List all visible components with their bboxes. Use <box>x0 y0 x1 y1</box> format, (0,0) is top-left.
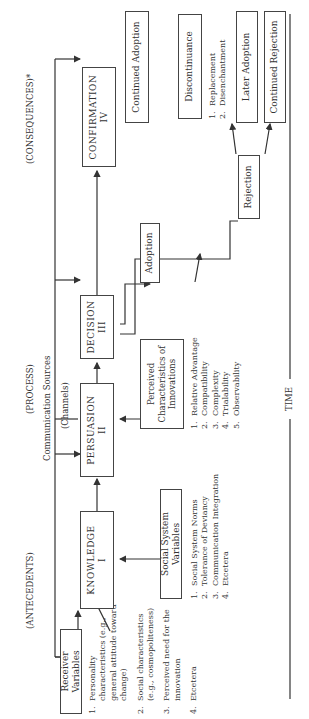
receiver-variables-list: 1.Personality characteristics (e.g., gen… <box>88 594 200 714</box>
confirmation-stage-box: CONFIRMATION IV <box>82 67 116 167</box>
persuasion-stage-box: PERSUASION II <box>80 383 114 477</box>
knowledge-stage-box: KNOWLEDGE I <box>80 511 114 609</box>
antecedents-header: (ANTECEDENTS) <box>25 552 35 629</box>
perceived-characteristics-box: Perceived Characteristics of Innovations <box>140 339 184 429</box>
social-system-variables-list: 1.Social System Norms 2.Tolerance of Dev… <box>190 449 232 599</box>
rejection-box: Rejection <box>238 155 260 219</box>
list-item: Observability <box>232 362 242 416</box>
list-item: Compatibility <box>200 361 210 416</box>
list-item: Communication Integration <box>211 474 221 586</box>
adoption-box: Adoption <box>140 223 160 283</box>
communication-sources-label: Communication Sources <box>42 356 52 461</box>
social-system-variables-box: Social System Variables <box>160 489 182 599</box>
perceived-characteristics-list: 1.Relative Advantage 2.Compatibility 3.C… <box>190 299 242 429</box>
list-item: Tolerance of Deviancy <box>200 496 210 586</box>
decision-stage-box: DECISION III <box>80 295 114 359</box>
time-axis-label: TIME <box>284 387 294 411</box>
channels-label: (Channels) <box>60 382 70 429</box>
process-header: (PROCESS) <box>25 364 35 414</box>
list-item: Disenchantment <box>218 40 228 106</box>
diagram-canvas: (ANTECEDENTS) (PROCESS) (CONSEQUENCES)* … <box>0 0 309 719</box>
continued-rejection-box: Continued Rejection <box>264 11 286 123</box>
receiver-variables-box: Receiver Variables <box>60 629 82 714</box>
later-adoption-box: Later Adoption <box>236 11 258 123</box>
list-item: Social System Norms <box>190 499 200 586</box>
list-item: Replacement <box>208 53 218 106</box>
list-item: Trialability <box>221 372 231 416</box>
list-item: Etcetera <box>221 551 231 586</box>
list-item: Etcetera <box>189 666 199 701</box>
list-item: Complexity <box>211 370 221 416</box>
receiver-variables-title: Receiver Variables <box>60 630 83 713</box>
list-item: Personality characteristics (e.g., gener… <box>88 594 130 701</box>
list-item: Social characteristics (e.g., cosmopolit… <box>136 594 157 701</box>
consequences-header: (CONSEQUENCES)* <box>25 74 35 164</box>
discontinuance-box: Discontinuance <box>178 14 202 119</box>
list-item: Relative Advantage <box>190 337 200 416</box>
discontinuance-types-list: 1.Replacement 2.Disenchantment <box>208 14 229 119</box>
list-item: Perceived need for the innovation <box>162 594 183 701</box>
continued-adoption-box: Continued Adoption <box>125 11 149 123</box>
